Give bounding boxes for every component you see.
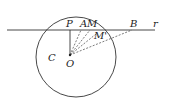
geometry-diagram: P A M M' B r C O xyxy=(0,0,170,112)
label-m-prime: M' xyxy=(93,30,107,41)
label-a: A xyxy=(79,18,87,29)
label-b: B xyxy=(129,18,137,29)
label-c: C xyxy=(48,52,56,63)
segment-oa xyxy=(70,30,81,55)
segment-om-prime xyxy=(70,34,96,55)
point-o xyxy=(69,54,71,56)
label-m: M xyxy=(86,18,98,29)
label-r: r xyxy=(153,18,159,29)
label-o: O xyxy=(66,58,74,69)
label-p: P xyxy=(65,18,73,29)
